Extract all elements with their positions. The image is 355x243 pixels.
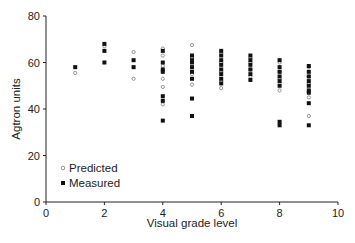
measured-point (161, 70, 165, 74)
y-tick-label: 40 (28, 103, 40, 115)
measured-point (307, 64, 311, 68)
y-tick-label: 20 (28, 150, 40, 162)
predicted-point (220, 86, 223, 89)
measured-point (219, 63, 223, 67)
y-tick-label: 80 (28, 10, 40, 22)
legend-measured-label: Measured (69, 177, 120, 189)
x-tick-label: 10 (332, 207, 344, 219)
measured-point (278, 120, 282, 124)
measured-point (248, 58, 252, 62)
data-points (73, 42, 311, 127)
measured-point (248, 78, 252, 82)
measured-point (161, 49, 165, 53)
measured-point (190, 97, 194, 101)
measured-point (219, 58, 223, 62)
predicted-point (190, 83, 193, 86)
measured-point (278, 74, 282, 78)
measured-point (278, 84, 282, 88)
x-tick-label: 0 (43, 207, 49, 219)
predicted-point (190, 43, 193, 46)
measured-point (219, 81, 223, 85)
measured-point (161, 119, 165, 123)
predicted-point (161, 85, 164, 88)
measured-point (248, 54, 252, 58)
measured-point (161, 94, 165, 98)
measured-point (278, 79, 282, 83)
measured-point (278, 70, 282, 74)
measured-point (307, 84, 311, 88)
x-tick-label: 2 (101, 207, 107, 219)
measured-point (73, 65, 77, 69)
y-tick-label: 60 (28, 57, 40, 69)
measured-point (190, 65, 194, 69)
predicted-point (74, 71, 77, 74)
measured-point (219, 77, 223, 81)
measured-point (190, 77, 194, 81)
measured-point (248, 63, 252, 67)
measured-point (307, 79, 311, 83)
predicted-point (161, 103, 164, 106)
predicted-point (161, 54, 164, 57)
measured-point (132, 65, 136, 69)
measured-point (161, 61, 165, 65)
measured-point (278, 58, 282, 62)
predicted-point (161, 64, 164, 67)
measured-point (307, 74, 311, 78)
measured-point (219, 49, 223, 53)
measured-point (219, 67, 223, 71)
measured-point (219, 72, 223, 76)
measured-point (190, 114, 194, 118)
measured-point (278, 65, 282, 69)
predicted-point (278, 89, 281, 92)
y-tick-label: 0 (34, 196, 40, 208)
measured-point (307, 101, 311, 105)
predicted-point (132, 77, 135, 80)
measured-point (307, 91, 311, 95)
measured-point (307, 123, 311, 127)
x-axis-title: Visual grade level (147, 217, 238, 229)
measured-point (161, 99, 165, 103)
measured-marker-icon (61, 181, 65, 185)
measured-point (219, 54, 223, 58)
measured-point (248, 72, 252, 76)
legend: Predicted Measured (61, 162, 120, 189)
measured-point (102, 42, 106, 46)
predicted-point (132, 50, 135, 53)
measured-point (132, 58, 136, 62)
y-axis-title: Agtron units (10, 78, 22, 140)
measured-point (307, 70, 311, 74)
scatter-chart: 020406080 0246810 Visual grade level Agt… (0, 0, 355, 243)
predicted-marker-icon (61, 166, 65, 170)
legend-predicted-label: Predicted (69, 162, 118, 174)
predicted-point (161, 77, 164, 80)
measured-point (190, 61, 194, 65)
measured-point (190, 54, 194, 58)
predicted-point (307, 114, 310, 117)
measured-point (102, 61, 106, 65)
measured-point (248, 67, 252, 71)
y-ticks: 020406080 (28, 10, 46, 208)
measured-point (102, 49, 106, 53)
predicted-point (307, 96, 310, 99)
measured-point (190, 70, 194, 74)
measured-point (278, 123, 282, 127)
x-tick-label: 8 (277, 207, 283, 219)
